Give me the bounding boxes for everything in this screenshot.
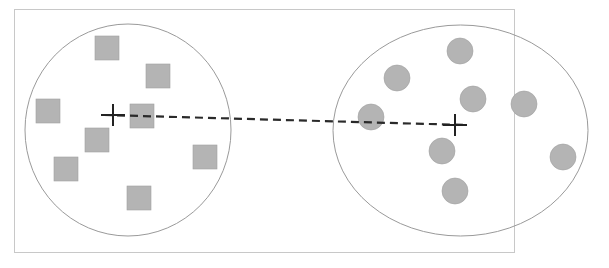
centroid-cross-icon	[101, 104, 125, 126]
centroids	[101, 104, 467, 136]
circle-cluster	[333, 25, 588, 236]
cluster-diagram	[0, 0, 609, 268]
square-cluster	[25, 24, 231, 236]
square-marker	[146, 64, 170, 88]
circle-marker	[511, 91, 537, 117]
clusters	[25, 24, 588, 236]
circle-marker	[447, 38, 473, 64]
circle-marker	[384, 65, 410, 91]
square-marker	[85, 128, 109, 152]
square-marker	[54, 157, 78, 181]
circle-marker	[442, 178, 468, 204]
circle-marker	[358, 104, 384, 130]
square-marker	[193, 145, 217, 169]
square-marker	[127, 186, 151, 210]
circle-marker	[550, 144, 576, 170]
centroid-link-dashed-line	[104, 115, 465, 125]
circle-marker	[460, 86, 486, 112]
square-marker	[95, 36, 119, 60]
square-marker	[36, 99, 60, 123]
circle-marker	[429, 138, 455, 164]
centroid-cross-icon	[443, 114, 467, 136]
